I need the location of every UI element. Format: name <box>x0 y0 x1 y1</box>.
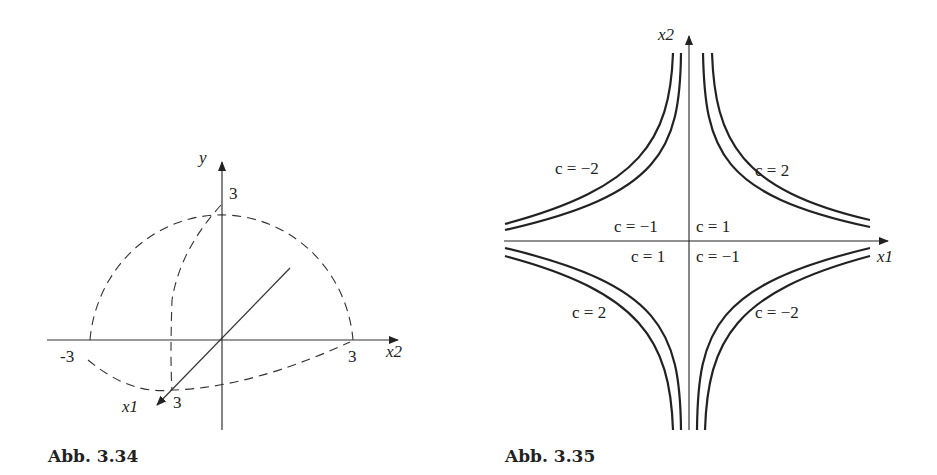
x2-tick-neg3: -3 <box>60 347 74 366</box>
label-q3-outer: c = 2 <box>572 303 606 322</box>
x1-tick-3: 3 <box>173 393 182 412</box>
x2-tick-3: 3 <box>348 347 357 366</box>
caption-3-35: Abb. 3.35 <box>504 446 595 466</box>
label-q1-inner: c = 1 <box>696 217 730 236</box>
x1-axis-label-b: x1 <box>876 247 893 266</box>
y-tick-3: 3 <box>229 184 238 203</box>
label-q4-inner: c = −1 <box>696 247 740 266</box>
label-q1-outer: c = 2 <box>755 161 789 180</box>
x1-axis-label: x1 <box>121 397 138 416</box>
caption-3-34: Abb. 3.34 <box>47 446 138 466</box>
label-q2-outer: c = −2 <box>555 159 599 178</box>
x2-axis-label-b: x2 <box>657 25 675 44</box>
figure-canvas: y 3 -3 3 x2 3 x1 Abb. 3.34 x2 x1 c = −2 … <box>0 0 937 475</box>
label-q3-inner: c = 1 <box>631 247 665 266</box>
label-q2-inner: c = −1 <box>614 217 658 236</box>
meridian <box>171 205 221 390</box>
base-ellipse <box>88 342 350 391</box>
figure-3-34 <box>47 162 398 430</box>
label-q4-outer: c = −2 <box>755 303 799 322</box>
y-axis-label: y <box>197 148 207 167</box>
x2-axis-label: x2 <box>385 342 403 361</box>
